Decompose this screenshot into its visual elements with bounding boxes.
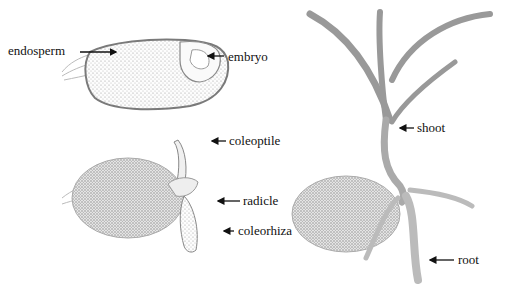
- label-coleoptile: coleoptile: [229, 134, 280, 148]
- germinating-seed: [62, 140, 198, 252]
- label-shoot: shoot: [417, 121, 445, 135]
- label-coleorhiza: coleorhiza: [238, 224, 292, 238]
- germination-illustration: [0, 0, 506, 308]
- seedling: [292, 12, 490, 280]
- label-endosperm: endosperm: [8, 44, 65, 58]
- label-radicle: radicle: [243, 194, 278, 208]
- label-root: root: [458, 253, 479, 267]
- dormant-seed: [62, 40, 228, 110]
- label-embryo: embryo: [228, 50, 268, 64]
